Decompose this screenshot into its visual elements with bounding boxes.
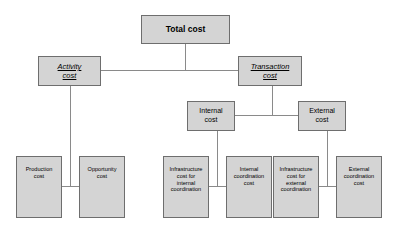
node-infrastructure-external-coordination-label: Infrastructure cost for external coordin… [278,166,315,193]
node-external-coordination-cost-label: External coordination cost [342,166,376,186]
connector-transaction-down [272,86,273,115]
connector-activity-down [70,86,71,186]
node-transaction-cost[interactable]: Transaction cost [238,56,302,86]
node-opportunity-cost-label: Opportunity cost [86,166,119,180]
node-activity-cost-label: Activity cost [56,62,84,80]
node-internal-cost-label: Internal cost [197,107,224,124]
connector-root-down [185,43,186,71]
node-opportunity-cost[interactable]: Opportunity cost [79,156,125,218]
connector-internal-down [217,131,218,186]
node-transaction-cost-label: Transaction cost [249,62,292,80]
connector-internal-leaf-bus [209,186,226,187]
node-internal-coordination-cost[interactable]: Internal coordination cost [226,156,272,218]
node-production-cost-label: Production cost [24,166,55,180]
connector-external-down [327,131,328,186]
cost-breakdown-diagram: Total cost Activity cost Transaction cos… [0,0,395,231]
node-activity-cost[interactable]: Activity cost [38,56,101,86]
node-infrastructure-internal-coordination-label: Infrastructure cost for internal coordin… [168,166,205,193]
node-infrastructure-external-coordination[interactable]: Infrastructure cost for external coordin… [273,156,319,218]
node-external-cost-label: External cost [307,107,337,124]
node-total-cost-label: Total cost [164,24,208,34]
node-external-coordination-cost[interactable]: External coordination cost [336,156,382,218]
node-infrastructure-internal-coordination[interactable]: Infrastructure cost for internal coordin… [163,156,209,218]
node-total-cost[interactable]: Total cost [141,15,230,44]
connector-activity-leaf-bus [62,186,79,187]
node-production-cost[interactable]: Production cost [16,156,62,218]
connector-external-leaf-bus [319,186,336,187]
node-external-cost[interactable]: External cost [298,101,346,131]
node-internal-coordination-cost-label: Internal coordination cost [232,166,266,186]
node-internal-cost[interactable]: Internal cost [187,101,235,131]
